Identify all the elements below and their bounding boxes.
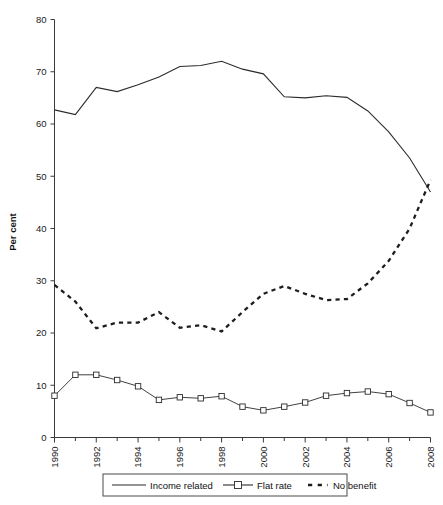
- x-axis-tick-label: 2002: [300, 447, 311, 468]
- series-flat-rate-markers: [52, 372, 433, 415]
- data-point-marker: [114, 377, 119, 382]
- data-point-marker: [177, 395, 182, 400]
- data-point-marker: [73, 372, 78, 377]
- y-axis-tick-label: 0: [41, 432, 46, 443]
- data-point-marker: [156, 397, 161, 402]
- data-point-marker: [386, 391, 391, 396]
- data-point-marker: [428, 410, 433, 415]
- data-point-marker: [261, 408, 266, 413]
- x-axis-tick-label: 2004: [341, 447, 352, 468]
- series-income-related-line: [55, 61, 431, 192]
- legend-label-no-benefit: No benefit: [333, 480, 377, 491]
- y-axis-tick-label: 20: [36, 327, 47, 338]
- legend-label-income-related: Income related: [150, 480, 213, 491]
- y-axis-tick-label: 30: [36, 275, 47, 286]
- x-axis-tick-label: 1994: [132, 447, 143, 468]
- data-point-marker: [323, 393, 328, 398]
- y-axis-tick-label: 10: [36, 380, 47, 391]
- data-point-marker: [219, 394, 224, 399]
- y-axis-tick-label: 60: [36, 118, 47, 129]
- x-axis-tick-label: 1990: [49, 447, 60, 468]
- y-axis-tick-label: 70: [36, 66, 47, 77]
- series-group: [52, 61, 433, 415]
- line-chart: 01020304050607080 1990199219941996199820…: [0, 0, 443, 505]
- x-axis-tick-label: 1998: [216, 447, 227, 468]
- chart-legend: Income related Flat rate No benefit: [103, 474, 377, 496]
- data-point-marker: [365, 389, 370, 394]
- x-axis-tick-label: 1992: [91, 447, 102, 468]
- chart-container: 01020304050607080 1990199219941996199820…: [0, 0, 443, 505]
- series-no-benefit-line: [55, 180, 431, 332]
- legend-label-flat-rate: Flat rate: [257, 480, 292, 491]
- x-axis-tick-label: 2006: [383, 447, 394, 468]
- y-axis-title: Per cent: [7, 212, 18, 250]
- data-point-marker: [240, 404, 245, 409]
- y-axis-tick-label: 50: [36, 171, 47, 182]
- legend-swatch-flat-rate-marker: [235, 482, 242, 489]
- data-point-marker: [407, 400, 412, 405]
- y-axis-tick-label: 80: [36, 14, 47, 25]
- data-point-marker: [302, 400, 307, 405]
- chart-axes: [55, 20, 431, 438]
- data-point-marker: [344, 390, 349, 395]
- data-point-marker: [135, 384, 140, 389]
- x-axis-tick-label: 1996: [174, 447, 185, 468]
- x-axis-tick-label: 2000: [258, 447, 269, 468]
- data-point-marker: [94, 372, 99, 377]
- x-axis-tick-label: 2008: [425, 447, 436, 468]
- y-axis-tick-label: 40: [36, 223, 47, 234]
- data-point-marker: [198, 396, 203, 401]
- data-point-marker: [52, 393, 57, 398]
- x-axis-ticks: 1990199219941996199820002002200420062008: [49, 438, 436, 468]
- y-axis-ticks: 01020304050607080: [36, 14, 55, 443]
- data-point-marker: [282, 404, 287, 409]
